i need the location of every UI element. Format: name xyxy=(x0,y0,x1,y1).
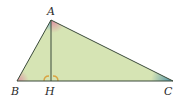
triangle-diagram: A B H C xyxy=(0,0,181,99)
triangle-fill xyxy=(17,20,173,81)
label-c: C xyxy=(164,85,173,98)
label-h: H xyxy=(44,85,55,98)
label-b: B xyxy=(10,85,19,98)
label-a: A xyxy=(46,5,55,18)
